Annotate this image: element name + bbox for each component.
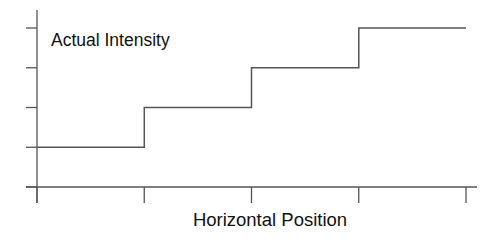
x-axis [26, 187, 477, 203]
x-ticks [37, 187, 466, 203]
x-axis-label: Horizontal Position [193, 209, 347, 230]
y-axis [26, 10, 37, 203]
y-ticks [26, 28, 37, 187]
series-annotation: Actual Intensity [51, 30, 170, 50]
step-chart: Actual Intensity Horizontal Position [0, 0, 496, 250]
